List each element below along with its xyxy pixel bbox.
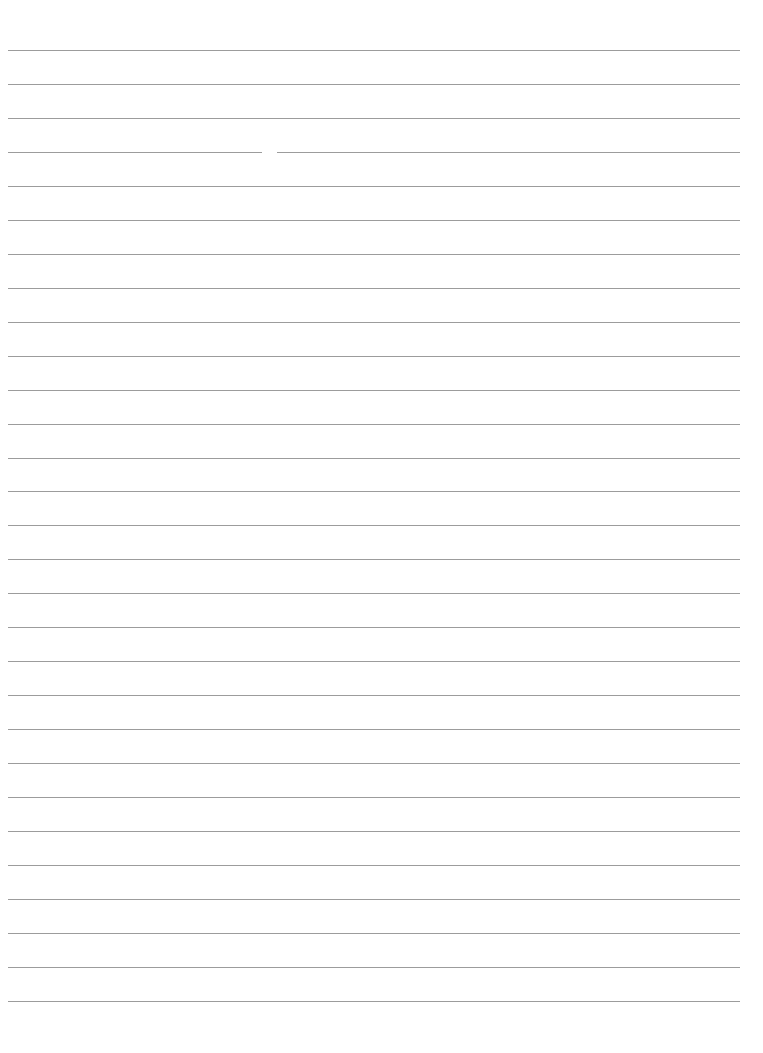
- ruled-page: [0, 0, 763, 1053]
- ruled-line: [8, 220, 740, 221]
- ruled-line: [8, 186, 740, 187]
- ruled-line: [8, 899, 740, 900]
- ruled-line: [8, 1001, 740, 1002]
- ruled-line: [8, 763, 740, 764]
- ruled-line: [8, 50, 740, 51]
- ruled-line: [8, 288, 740, 289]
- ruled-line: [8, 661, 740, 662]
- ruled-line: [8, 695, 740, 696]
- ruled-line: [8, 322, 740, 323]
- ruled-line: [8, 525, 740, 526]
- ruled-line: [8, 593, 740, 594]
- ruled-line: [8, 831, 740, 832]
- ruled-line: [8, 356, 740, 357]
- line-gap: [262, 151, 277, 154]
- ruled-line: [8, 152, 740, 153]
- ruled-line: [8, 458, 740, 459]
- ruled-line: [8, 627, 740, 628]
- ruled-line: [8, 729, 740, 730]
- ruled-line: [8, 84, 740, 85]
- ruled-line: [8, 967, 740, 968]
- ruled-line: [8, 118, 740, 119]
- ruled-line: [8, 424, 740, 425]
- ruled-line: [8, 933, 740, 934]
- ruled-line: [8, 491, 740, 492]
- ruled-line: [8, 390, 740, 391]
- ruled-line: [8, 559, 740, 560]
- ruled-line: [8, 797, 740, 798]
- ruled-line: [8, 865, 740, 866]
- ruled-line: [8, 254, 740, 255]
